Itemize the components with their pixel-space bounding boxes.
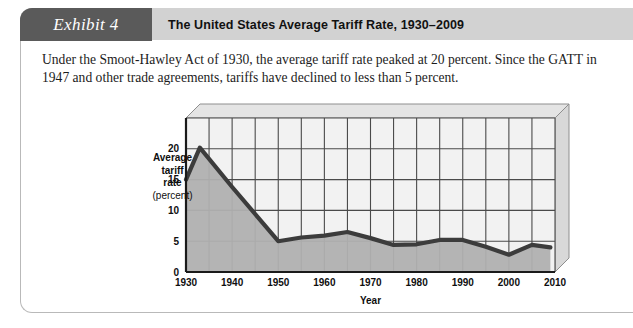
x-tick-1930: 1930: [175, 277, 198, 288]
y-tick-5: 5: [173, 236, 179, 247]
tariff-rate-chart: Average tariff rate (percent) 05101520 1…: [130, 96, 590, 316]
chart-top-wall: [186, 104, 569, 118]
exhibit-number-label: Exhibit 4: [53, 15, 118, 35]
y-tick-10: 10: [168, 205, 180, 216]
x-tick-2000: 2000: [498, 277, 521, 288]
y-axis-title-line-2: tariff: [130, 165, 215, 178]
x-tick-1940: 1940: [221, 277, 244, 288]
y-axis-title-line-1: Average: [130, 152, 215, 165]
y-axis-title-unit: (percent): [130, 190, 215, 203]
x-axis-title: Year: [360, 295, 381, 306]
x-tick-1950: 1950: [267, 277, 290, 288]
exhibit-caption: Under the Smoot-Hawley Act of 1930, the …: [42, 51, 617, 86]
y-axis-title: Average tariff rate (percent): [130, 152, 215, 202]
x-tick-1970: 1970: [359, 277, 382, 288]
exhibit-number-tab: Exhibit 4: [20, 8, 152, 41]
exhibit-title: The United States Average Tariff Rate, 1…: [168, 8, 464, 41]
chart-canvas: 05101520 1930194019501960197019801990200…: [130, 96, 590, 316]
chart-right-wall: [555, 104, 569, 272]
x-axis-tick-labels: 193019401950196019701980199020002010: [175, 277, 567, 288]
y-tick-0: 0: [173, 267, 179, 278]
x-tick-1990: 1990: [452, 277, 475, 288]
y-axis-title-line-3: rate: [130, 177, 215, 190]
x-tick-1960: 1960: [313, 277, 336, 288]
x-tick-1980: 1980: [406, 277, 429, 288]
x-tick-2010: 2010: [544, 277, 567, 288]
